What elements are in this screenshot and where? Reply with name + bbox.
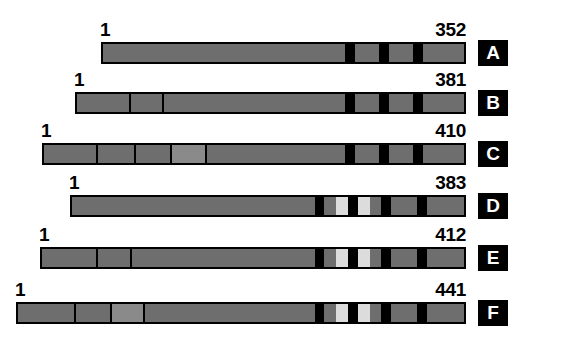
domain-segment-fill <box>389 44 413 62</box>
start-residue-label: 1 <box>69 173 79 192</box>
domain-segment-fill <box>355 145 379 163</box>
domain-segment-fill <box>427 249 466 267</box>
domain-segment-band-dark <box>315 197 324 215</box>
domain-segment-band-dark <box>381 197 391 215</box>
domain-segment-band-dark <box>345 94 355 112</box>
domain-segment-fill <box>42 249 315 267</box>
start-residue-label: 1 <box>74 70 84 89</box>
domain-segment-band-dark <box>315 304 324 322</box>
domain-segment-fill <box>370 304 381 322</box>
domain-segment-band-dark <box>348 249 358 267</box>
domain-segment-band-dark <box>345 145 355 163</box>
construct-letter-label: E <box>478 245 508 271</box>
construct-letter-label: D <box>478 193 508 219</box>
construct-letter-label: B <box>478 90 508 116</box>
domain-segment-fill <box>324 249 336 267</box>
domain-segment-band-dark <box>348 304 358 322</box>
protein-bar <box>42 143 466 165</box>
start-residue-label: 1 <box>39 225 49 244</box>
end-residue-label: 412 <box>435 225 466 244</box>
end-residue-label: 383 <box>435 173 466 192</box>
domain-segment-fill <box>370 249 381 267</box>
domain-divider <box>134 145 136 163</box>
start-residue-label: 1 <box>100 20 110 39</box>
domain-segment-fill <box>391 304 417 322</box>
domain-segment-fill <box>370 197 381 215</box>
domain-segment-band-dark <box>379 44 389 62</box>
domain-divider <box>205 145 207 163</box>
domain-segment-fill <box>355 94 379 112</box>
start-residue-label: 1 <box>15 280 25 299</box>
domain-segment-fill <box>324 197 336 215</box>
protein-bar <box>75 92 466 114</box>
domain-segment-fill <box>72 197 315 215</box>
domain-segment-fill <box>423 94 466 112</box>
domain-segment-band-light <box>336 197 348 215</box>
domain-segment-band-dark <box>379 145 389 163</box>
protein-bar <box>70 195 466 217</box>
domain-segment-fill-light <box>170 145 205 163</box>
domain-segment-band-dark <box>413 44 423 62</box>
domain-divider <box>162 94 164 112</box>
domain-segment-fill <box>423 44 466 62</box>
end-residue-label: 352 <box>435 20 466 39</box>
domain-segment-band-dark <box>381 304 391 322</box>
domain-segment-band-dark <box>413 145 423 163</box>
domain-segment-band-light <box>358 304 370 322</box>
domain-segment-fill <box>427 304 466 322</box>
domain-divider <box>143 304 145 322</box>
end-residue-label: 441 <box>435 280 466 299</box>
end-residue-label: 410 <box>435 121 466 140</box>
protein-bar <box>40 247 466 269</box>
domain-segment-fill <box>391 197 417 215</box>
domain-segment-fill <box>103 44 345 62</box>
domain-segment-band-light <box>336 304 348 322</box>
domain-divider <box>74 304 76 322</box>
domain-segment-fill <box>18 304 110 322</box>
start-residue-label: 1 <box>41 121 51 140</box>
domain-divider <box>130 249 132 267</box>
domain-segment-band-dark <box>315 249 324 267</box>
domain-segment-fill <box>324 304 336 322</box>
domain-segment-fill <box>427 197 466 215</box>
domain-segment-band-dark <box>348 197 358 215</box>
domain-segment-fill <box>77 94 345 112</box>
domain-segment-fill-light <box>110 304 143 322</box>
domain-segment-band-dark <box>379 94 389 112</box>
domain-segment-band-dark <box>417 304 427 322</box>
domain-segment-fill <box>44 145 170 163</box>
domain-segment-band-dark <box>381 249 391 267</box>
domain-segment-band-dark <box>345 44 355 62</box>
domain-segment-band-light <box>336 249 348 267</box>
domain-segment-band-dark <box>417 197 427 215</box>
domain-segment-band-dark <box>417 249 427 267</box>
domain-divider <box>129 94 131 112</box>
construct-letter-label: F <box>478 300 508 326</box>
domain-divider <box>110 304 112 322</box>
domain-segment-fill <box>355 44 379 62</box>
protein-bar <box>16 302 466 324</box>
domain-segment-band-light <box>358 197 370 215</box>
domain-divider <box>96 145 98 163</box>
domain-segment-fill <box>423 145 466 163</box>
domain-segment-fill <box>391 249 417 267</box>
domain-segment-band-light <box>358 249 370 267</box>
domain-segment-fill <box>389 94 413 112</box>
domain-segment-fill <box>205 145 345 163</box>
protein-domain-figure: 1352A1381B1410C1383D1412E1441F <box>0 0 568 358</box>
domain-segment-fill <box>143 304 315 322</box>
domain-segment-band-dark <box>413 94 423 112</box>
domain-divider <box>170 145 172 163</box>
construct-letter-label: C <box>478 141 508 167</box>
construct-letter-label: A <box>478 40 508 66</box>
end-residue-label: 381 <box>435 70 466 89</box>
domain-divider <box>96 249 98 267</box>
protein-bar <box>101 42 466 64</box>
domain-segment-fill <box>389 145 413 163</box>
